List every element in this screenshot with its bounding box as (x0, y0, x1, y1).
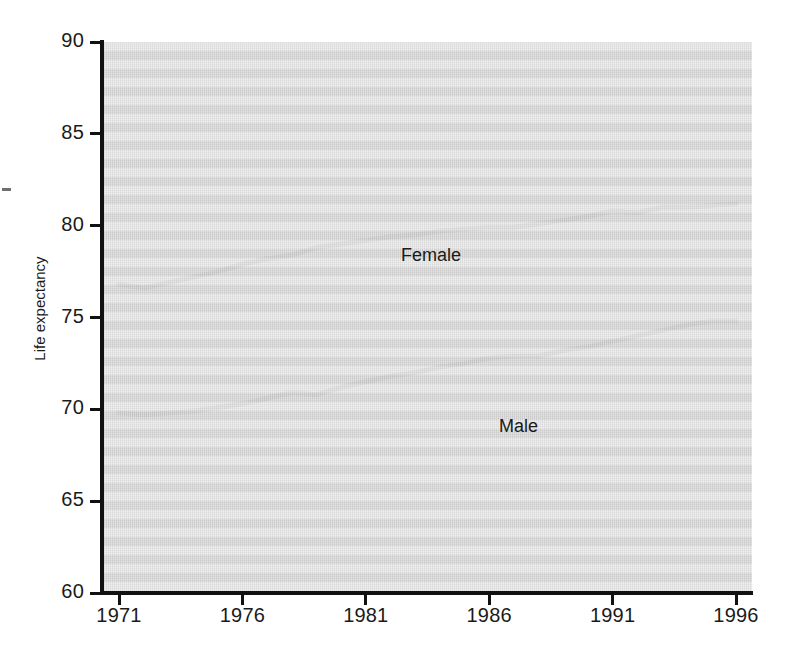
y-tick-label: 90 (0, 29, 84, 52)
x-tick-label: 1976 (197, 604, 287, 627)
x-axis-line (100, 591, 753, 595)
series-label-female: Female (401, 245, 461, 266)
y-tick-mark-75 (90, 316, 100, 319)
x-tick-label: 1971 (74, 604, 164, 627)
y-tick-label-wrap: 65 (0, 488, 84, 512)
y-tick-mark-90 (90, 41, 100, 44)
x-tick-label: 1986 (444, 604, 534, 627)
x-tick-label: 1996 (691, 604, 781, 627)
life-expectancy-line-chart: Female Male 90858075706560 1971197619811… (0, 0, 793, 654)
y-tick-mark-80 (90, 224, 100, 227)
y-tick-mark-85 (90, 132, 100, 135)
page-edge-artifact (2, 188, 11, 191)
y-tick-label-wrap: 70 (0, 396, 84, 420)
y-axis-title: Life expectancy (31, 219, 48, 399)
y-axis-line (100, 40, 104, 595)
y-tick-label-wrap: 60 (0, 580, 84, 604)
plot-area: Female Male (103, 42, 752, 593)
y-tick-mark-70 (90, 408, 100, 411)
y-tick-label: 70 (0, 396, 84, 419)
series-label-male: Male (499, 416, 538, 437)
y-tick-mark-60 (90, 592, 100, 595)
x-tick-label: 1981 (321, 604, 411, 627)
plot-stripe-background (103, 42, 752, 593)
y-tick-label: 65 (0, 488, 84, 511)
y-tick-label-wrap: 90 (0, 29, 84, 53)
y-tick-label-wrap: 85 (0, 121, 84, 145)
y-tick-mark-65 (90, 500, 100, 503)
y-tick-label: 60 (0, 580, 84, 603)
x-tick-label: 1991 (568, 604, 658, 627)
y-tick-label: 85 (0, 121, 84, 144)
